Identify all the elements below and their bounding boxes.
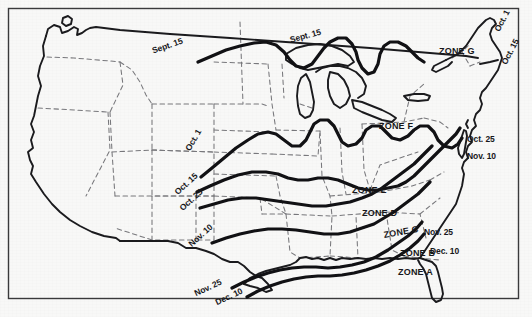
zone-label-zone-b: ZONE B	[400, 249, 435, 258]
zone-label-zone-g: ZONE G	[439, 47, 475, 56]
zone-label-zone-d: ZONE D	[362, 209, 397, 218]
zone-label-zone-f: ZONE F	[379, 122, 413, 131]
date-label-nov25-east: Nov. 25	[424, 228, 453, 237]
date-label-oct25-east: Oct. 25	[467, 135, 495, 144]
date-label-nov10-east: Nov. 10	[467, 152, 496, 161]
zone-label-zone-a: ZONE A	[398, 268, 433, 277]
zone-label-zone-e: ZONE E	[352, 186, 387, 195]
